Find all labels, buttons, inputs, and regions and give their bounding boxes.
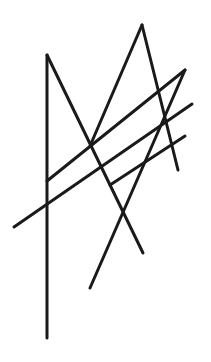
line-short-cross [110,136,185,185]
line-long-descender [90,70,185,288]
line-long-cross [14,104,192,227]
line-left-diagonal [47,55,143,253]
line-peak-left [90,25,142,146]
line-drawing [0,0,211,362]
